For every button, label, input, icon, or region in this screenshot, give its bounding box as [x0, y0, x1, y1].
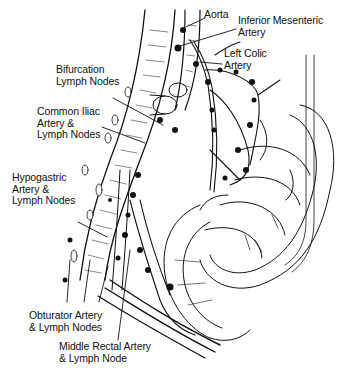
- label-obturator-artery-lymph-nodes: Obturator Artery & Lymph Nodes: [29, 310, 102, 333]
- label-inferior-mesenteric-artery: Inferior Mesenteric Artery: [238, 15, 323, 38]
- label-aorta: Aorta: [204, 9, 229, 21]
- label-left-colic-artery: Left Colic Artery: [224, 48, 267, 71]
- label-middle-rectal-artery-lymph-node: Middle Rectal Artery & Lymph Node: [59, 341, 151, 364]
- anatomical-figure: Aorta Inferior Mesenteric Artery Left Co…: [0, 0, 339, 370]
- label-common-iliac-artery-lymph-nodes: Common Iliac Artery & Lymph Nodes: [37, 106, 100, 141]
- label-hypogastric-artery-lymph-nodes: Hypogastric Artery & Lymph Nodes: [12, 172, 75, 207]
- label-bifurcation-lymph-nodes: Bifurcation Lymph Nodes: [56, 64, 119, 87]
